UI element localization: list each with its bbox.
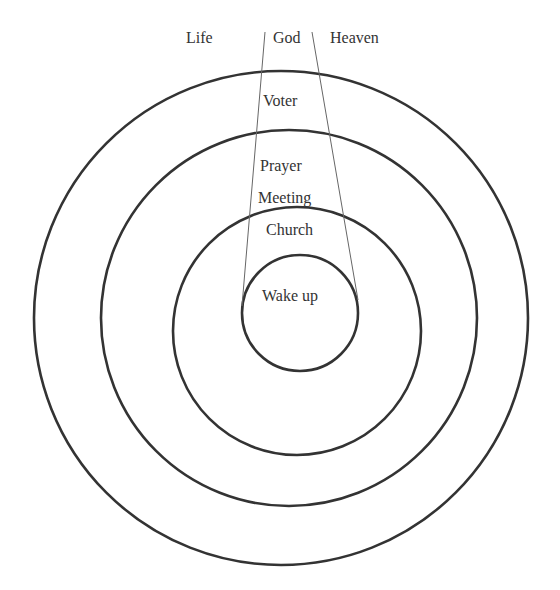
label-church: Church [266,222,313,238]
outer-circle [34,71,528,565]
third-circle [173,207,421,455]
label-meeting: Meeting [258,190,311,206]
label-voter: Voter [263,93,297,109]
label-heaven: Heaven [330,30,379,46]
label-prayer: Prayer [260,158,302,174]
funnel-line-right [312,32,358,300]
label-god: God [273,30,301,46]
label-life: Life [186,30,213,46]
inner-circle [242,255,358,371]
label-wake-up: Wake up [262,288,318,304]
